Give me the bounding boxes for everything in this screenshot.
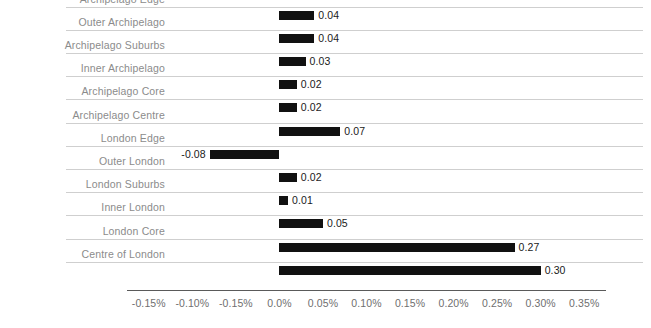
category-label: Outer London — [0, 155, 165, 167]
gridline — [66, 146, 643, 147]
gridline — [66, 99, 643, 100]
bar-value-label: 0.30 — [545, 264, 566, 276]
bar-row: Archipelago Edge0.04 — [0, 0, 651, 14]
bar-row: Inner Archipelago0.02 — [0, 60, 651, 83]
bar-row: London Edge-0.08 — [0, 130, 651, 153]
gridline — [66, 169, 643, 170]
x-tick-label: 0.0% — [267, 297, 291, 309]
x-tick-label: -0.15% — [219, 297, 253, 309]
gridline — [66, 215, 643, 216]
category-label: Archipelago Suburbs — [0, 39, 165, 51]
bar-row: Archipelago Suburbs0.03 — [0, 37, 651, 60]
x-axis-line — [127, 290, 606, 291]
category-label: London Core — [0, 225, 165, 237]
x-tick-label: -0.15% — [132, 297, 166, 309]
category-label: Outer Archipelago — [0, 16, 165, 28]
plot-area: Archipelago Edge0.04Outer Archipelago0.0… — [0, 0, 651, 290]
bar-chart: Archipelago Edge0.04Outer Archipelago0.0… — [0, 0, 651, 328]
x-tick-label: 0.20% — [438, 297, 468, 309]
x-tick-label: 0.35% — [569, 297, 599, 309]
x-tick-label: 0.25% — [482, 297, 512, 309]
gridline — [66, 7, 643, 8]
gridline — [66, 123, 643, 124]
gridline — [66, 30, 643, 31]
bar-row: Inner London0.05 — [0, 199, 651, 222]
gridline — [66, 239, 643, 240]
category-label: Archipelago Edge — [0, 0, 165, 5]
bar-row: Archipelago Core0.02 — [0, 83, 651, 106]
x-tick-label: 0.05% — [308, 297, 338, 309]
bar-row: London Suburbs0.01 — [0, 176, 651, 199]
category-label: Centre of London — [0, 248, 165, 260]
bar-row: Centre of London0.30 — [0, 246, 651, 269]
gridline — [66, 262, 643, 263]
gridline — [66, 53, 643, 54]
category-label: Inner London — [0, 201, 165, 213]
category-label: London Suburbs — [0, 178, 165, 190]
bar-row: Outer Archipelago0.04 — [0, 14, 651, 37]
category-label: Inner Archipelago — [0, 62, 165, 74]
x-tick-label: 0.15% — [395, 297, 425, 309]
category-label: Archipelago Centre — [0, 109, 165, 121]
gridline — [66, 192, 643, 193]
x-tick-label: -0.10% — [175, 297, 209, 309]
gridline — [66, 76, 643, 77]
category-label: London Edge — [0, 132, 165, 144]
bar-row: London Core0.27 — [0, 223, 651, 246]
bar — [279, 266, 540, 275]
bar-row: Outer London0.02 — [0, 153, 651, 176]
bar-row: Archipelago Centre0.07 — [0, 107, 651, 130]
category-label: Archipelago Core — [0, 85, 165, 97]
x-tick-label: 0.30% — [526, 297, 556, 309]
x-tick-label: 0.10% — [351, 297, 381, 309]
